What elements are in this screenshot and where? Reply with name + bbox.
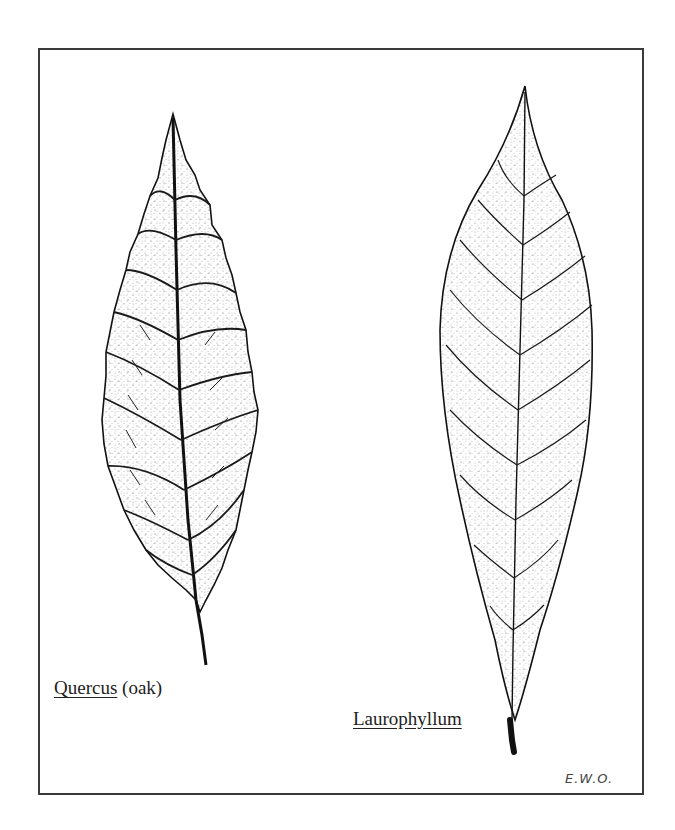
laurophyllum-leaf-illustration	[440, 86, 592, 752]
laurophyllum-genus: Laurophyllum	[353, 708, 462, 729]
quercus-leaf-illustration	[102, 114, 258, 665]
leaf-illustrations	[0, 0, 675, 830]
quercus-common-name: (oak)	[122, 677, 162, 698]
quercus-label: Quercus (oak)	[54, 677, 162, 699]
artist-signature: E.W.O.	[565, 771, 613, 786]
quercus-genus: Quercus	[54, 677, 117, 698]
laurophyllum-label: Laurophyllum	[353, 708, 462, 730]
